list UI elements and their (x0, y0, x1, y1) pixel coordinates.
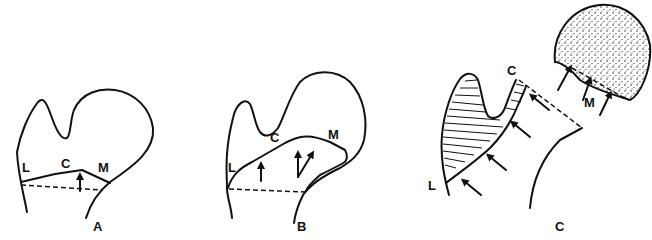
arrow-icon (532, 96, 549, 110)
arrow-icon (513, 123, 530, 137)
label-c: C (270, 130, 280, 145)
bone-outline-a (17, 90, 153, 218)
bone-outline-b (227, 72, 366, 223)
dashed-line-a (21, 185, 103, 190)
shaft-outline (530, 128, 582, 208)
arrow-icon (600, 94, 610, 115)
caption-a: A (93, 219, 103, 234)
label-l: L (428, 178, 436, 193)
label-c: C (507, 63, 517, 78)
arrow-icon (489, 156, 506, 170)
dashed-line-b (229, 189, 305, 192)
dashed-outline-c (519, 80, 582, 128)
label-c: C (61, 156, 71, 171)
label-l: L (22, 160, 30, 175)
label-m: M (328, 127, 339, 142)
panel-a: L C M A (17, 90, 153, 234)
label-m: M (584, 95, 595, 110)
arrow-icon (558, 68, 570, 90)
label-m: M (98, 160, 109, 175)
fracture-line-a (21, 170, 110, 183)
caption-c: C (555, 219, 565, 234)
panel-b: L C M B (227, 72, 366, 234)
arrow-icon (464, 181, 481, 195)
panel-c: C L M C (428, 5, 650, 234)
figure-canvas: L C M A L C M B (0, 0, 652, 240)
arrow-icon (298, 154, 312, 177)
caption-b: B (297, 219, 306, 234)
label-l: L (228, 160, 236, 175)
fracture-fragment-b (228, 136, 347, 191)
